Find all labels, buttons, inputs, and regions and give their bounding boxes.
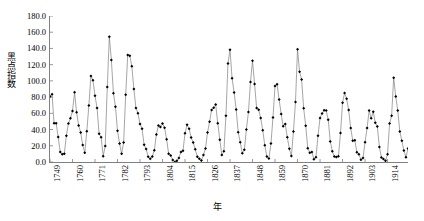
x-axis-title: 年 (213, 203, 222, 212)
x-tick-label: 1749 (53, 165, 62, 182)
x-tick-label: 1837 (233, 165, 242, 182)
x-tick-label: 1771 (98, 165, 107, 182)
x-tick-label: 1815 (188, 165, 197, 182)
x-tick-label: 1793 (143, 165, 152, 182)
x-tick-label: 1870 (301, 165, 310, 182)
x-tick-label: 1804 (166, 165, 175, 182)
x-tick-label: 1903 (368, 165, 377, 182)
x-tick-label: 1848 (256, 165, 265, 182)
sunspot-line-chart: 黑点指数 0.020.040.060.080.0100.0120.0140.01… (0, 0, 424, 221)
x-tick-label: 1892 (346, 165, 355, 182)
x-tick-label: 1760 (76, 165, 85, 182)
x-tick-label: 1782 (121, 165, 130, 182)
x-tick-label: 1914 (391, 165, 400, 182)
x-axis-tick-labels: 1749176017711782179318041815182618371848… (0, 0, 424, 221)
x-tick-label: 1859 (278, 165, 287, 182)
x-tick-label: 1881 (323, 165, 332, 182)
x-tick-label: 1826 (211, 165, 220, 182)
